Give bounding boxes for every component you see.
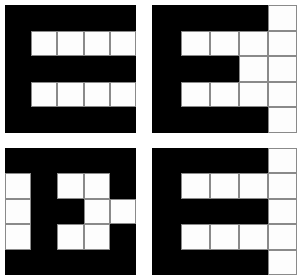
grid-cell-black (152, 199, 181, 224)
grid-cell-white (268, 56, 297, 82)
grid-cell-black (152, 107, 181, 133)
grid-cell-white (210, 31, 239, 57)
grid-cell-black (31, 5, 57, 31)
grid-cell-white (57, 31, 83, 57)
grid-cell-white (110, 82, 136, 108)
grid-cell-black (239, 148, 268, 173)
grid-cell-black (110, 107, 136, 133)
grid-cell-black (181, 199, 210, 224)
grid-cell-white (110, 199, 136, 224)
grid-cell-black (31, 148, 57, 173)
grid-cell-black (181, 56, 210, 82)
grid-cell-white (210, 224, 239, 249)
grid-cell-black (84, 56, 110, 82)
grid-cell-white (268, 173, 297, 198)
grid-cell-white (268, 5, 297, 31)
grid-cell-white (5, 199, 31, 224)
grid-cell-white (181, 173, 210, 198)
grid-cell-black (31, 199, 57, 224)
grid-cell-white (268, 148, 297, 173)
grid-cell-black (31, 107, 57, 133)
grid-cell-black (239, 5, 268, 31)
grid-cell-black (84, 5, 110, 31)
grid-cell-black (152, 173, 181, 198)
grid-cell-black (110, 173, 136, 198)
grid-cell-black (31, 224, 57, 249)
grid-cell-black (84, 250, 110, 275)
grid-cell-black (210, 107, 239, 133)
grid-cell-black (210, 56, 239, 82)
grid-cell-black (5, 148, 31, 173)
grid-cell-white (210, 173, 239, 198)
grid-cell-white (239, 224, 268, 249)
grid-cell-white (5, 173, 31, 198)
quadrant-bottom-left (5, 148, 136, 275)
grid-cell-black (5, 107, 31, 133)
grid-cell-black (152, 224, 181, 249)
grid-cell-black (152, 148, 181, 173)
grid-cell-black (152, 250, 181, 275)
grid-cell-black (239, 107, 268, 133)
grid-cell-black (5, 31, 31, 57)
grid-cell-black (57, 56, 83, 82)
pattern-canvas (0, 0, 302, 280)
grid-cell-black (152, 31, 181, 57)
grid-cell-black (31, 56, 57, 82)
grid-cell-white (268, 82, 297, 108)
grid-cell-black (5, 82, 31, 108)
quadrant-top-left (5, 5, 136, 133)
grid-cell-black (110, 56, 136, 82)
grid-cell-white (181, 224, 210, 249)
grid-cell-black (5, 5, 31, 31)
grid-cell-white (110, 31, 136, 57)
grid-cell-black (210, 148, 239, 173)
grid-cell-black (57, 107, 83, 133)
grid-cell-black (5, 56, 31, 82)
grid-cell-white (31, 31, 57, 57)
grid-cell-white (268, 199, 297, 224)
grid-cell-white (84, 82, 110, 108)
grid-cell-white (57, 173, 83, 198)
grid-cell-white (181, 31, 210, 57)
grid-cell-white (239, 31, 268, 57)
grid-cell-white (84, 31, 110, 57)
grid-cell-white (239, 82, 268, 108)
grid-cell-black (152, 56, 181, 82)
grid-cell-black (57, 5, 83, 31)
grid-cell-white (239, 56, 268, 82)
quadrant-bottom-right (152, 148, 297, 275)
grid-cell-black (110, 5, 136, 31)
grid-cell-black (152, 82, 181, 108)
grid-cell-black (57, 199, 83, 224)
grid-cell-black (57, 250, 83, 275)
grid-cell-white (31, 82, 57, 108)
grid-cell-black (31, 250, 57, 275)
grid-cell-black (110, 148, 136, 173)
grid-cell-black (181, 107, 210, 133)
grid-cell-white (57, 224, 83, 249)
grid-cell-black (210, 199, 239, 224)
grid-cell-white (268, 224, 297, 249)
grid-cell-white (5, 224, 31, 249)
grid-cell-black (210, 5, 239, 31)
grid-cell-white (268, 250, 297, 275)
grid-cell-white (84, 173, 110, 198)
grid-cell-black (210, 250, 239, 275)
grid-cell-black (84, 148, 110, 173)
grid-cell-white (57, 82, 83, 108)
grid-cell-black (239, 199, 268, 224)
grid-cell-black (110, 250, 136, 275)
grid-cell-black (181, 5, 210, 31)
grid-cell-black (239, 250, 268, 275)
grid-cell-black (152, 5, 181, 31)
quadrant-top-right (152, 5, 297, 133)
grid-cell-black (57, 148, 83, 173)
grid-cell-black (110, 224, 136, 249)
grid-cell-white (239, 173, 268, 198)
grid-cell-white (268, 107, 297, 133)
grid-cell-white (210, 82, 239, 108)
grid-cell-black (5, 250, 31, 275)
grid-cell-white (84, 199, 110, 224)
grid-cell-black (84, 107, 110, 133)
grid-cell-white (84, 224, 110, 249)
